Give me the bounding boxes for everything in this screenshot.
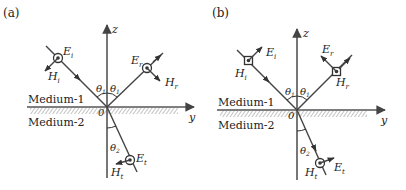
e-reflected-label: Er [130, 54, 143, 69]
theta-1-reflected-label: θ1 [300, 86, 310, 98]
medium-1-label: Medium-1 [218, 96, 275, 109]
e-incident-label: Ei [265, 46, 276, 61]
h-reflected-label: Hr [164, 76, 179, 91]
h-incident-label: Hi [47, 70, 60, 85]
h-incident-label: Hi [234, 67, 247, 82]
medium-1-label: Medium-1 [28, 93, 85, 106]
e-reflected-arrow [321, 56, 337, 72]
reflection-refraction-diagram: (a) y z 0 Medium-1 Medium-2 Ei Hi Er Hr [0, 0, 406, 190]
h-transmitted-label: Ht [110, 166, 124, 181]
e-transmitted-label: Et [135, 152, 147, 167]
reflected-direction-arrow [339, 58, 350, 69]
theta-1-incident-label: θ1 [96, 83, 106, 95]
panel-label: (b) [212, 6, 229, 20]
theta-1-reflected-label: θ1 [110, 83, 120, 95]
medium-2-label: Medium-2 [218, 119, 275, 132]
h-reflected-label: Hr [335, 76, 350, 91]
theta-2-label: θ2 [110, 142, 120, 154]
z-axis-label: z [302, 27, 309, 40]
y-axis-label: y [380, 114, 388, 127]
origin-label: 0 [288, 110, 295, 121]
e-incident-label: Ei [62, 45, 73, 60]
medium-2-label: Medium-2 [28, 116, 85, 129]
h-reflected-arrow [147, 68, 160, 81]
e-incident-arrow [249, 47, 263, 61]
y-axis-label: y [188, 111, 196, 124]
panel-b: (b) y z 0 Medium-1 Medium-2 Ei Hi Er Hr … [212, 6, 388, 181]
incident-direction-arrow [265, 78, 269, 82]
e-transmitted-label: Et [333, 161, 345, 176]
theta-2-arc [107, 126, 116, 128]
panel-label: (a) [3, 6, 20, 20]
theta-2-label: θ2 [300, 145, 310, 157]
z-axis-label: z [111, 23, 118, 36]
incident-direction-arrow [76, 76, 80, 80]
panel-a: (a) y z 0 Medium-1 Medium-2 Ei Hi Er Hr [3, 6, 196, 181]
figure-stage: (a) y z 0 Medium-1 Medium-2 Ei Hi Er Hr [0, 0, 406, 190]
reflected-direction-arrow [153, 55, 161, 62]
origin-label: 0 [98, 107, 105, 118]
h-transmitted-label: Ht [304, 166, 318, 181]
e-reflected-label: Er [321, 43, 334, 58]
theta-1-incident-label: θ1 [285, 86, 295, 98]
theta-2-arc [297, 129, 306, 131]
